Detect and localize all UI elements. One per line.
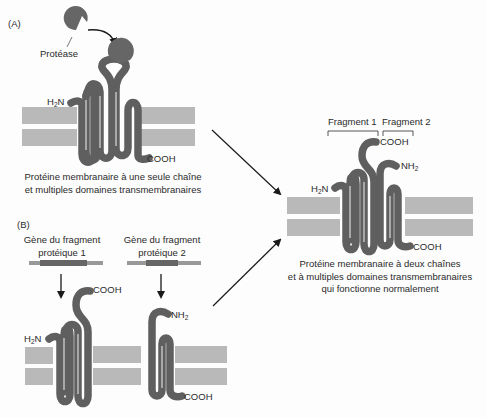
- c-terminus-label-a: COOH: [147, 153, 176, 164]
- protease-pointer-line: [67, 37, 72, 47]
- gene1-line2: protéique 1: [16, 247, 108, 260]
- protease-icon: [64, 6, 88, 30]
- gene1-line1: Gène du fragment: [16, 234, 108, 247]
- panel-a-label: (A): [8, 18, 21, 29]
- result-n-terminus-1-label: H2N: [311, 183, 328, 194]
- caption-a: Protéine membranaire à une seule chaîne …: [18, 171, 208, 196]
- caption-result-line3: qui fonctionne normalement: [280, 283, 480, 296]
- frag1-n-terminus-label: H2N: [24, 333, 41, 344]
- result-fragment-1: [335, 142, 376, 252]
- gene-1: [29, 260, 103, 266]
- gene2-line2: protéique 2: [116, 247, 208, 260]
- panel-b-label: (B): [17, 219, 30, 230]
- protease-label: Protéase: [40, 48, 78, 59]
- protein-single-chain: [71, 59, 149, 162]
- gene1-label: Gène du fragment protéique 1: [16, 234, 108, 259]
- arrow-a-to-result: [212, 130, 280, 194]
- caption-result: Protéine membranaire à deux chaînes et à…: [280, 258, 480, 296]
- caption-a-line2: et multiples domaines transmembranaires: [18, 184, 208, 197]
- gene2-label: Gène du fragment protéique 2: [116, 234, 208, 259]
- protein-fragment-1: [49, 291, 90, 404]
- gene2-line1: Gène du fragment: [116, 234, 208, 247]
- curved-arrow: [88, 30, 115, 44]
- caption-a-line1: Protéine membranaire à une seule chaîne: [18, 171, 208, 184]
- result-c-terminus-1-label: COOH: [380, 136, 409, 147]
- fragment2-label: Fragment 2: [382, 116, 431, 127]
- n-terminus-label-a: H2N: [47, 96, 64, 107]
- caption-result-line2: et à multiples domaines transmembranaire…: [280, 271, 480, 284]
- fragment1-label: Fragment 1: [328, 116, 377, 127]
- gene-2: [127, 260, 201, 266]
- membrane-b: [25, 346, 227, 385]
- result-c-terminus-2-label: COOH: [413, 241, 442, 252]
- arrow-b-to-result: [213, 240, 280, 306]
- frag2-c-terminus-label: COOH: [184, 391, 213, 402]
- caption-result-line1: Protéine membranaire à deux chaînes: [280, 258, 480, 271]
- bracket-fragment-1: [328, 131, 378, 136]
- frag2-n-terminus-label: NH2: [171, 309, 188, 320]
- result-n-terminus-2-label: NH2: [401, 160, 418, 171]
- frag1-c-terminus-label: COOH: [93, 284, 122, 295]
- diagram-canvas: [0, 0, 486, 418]
